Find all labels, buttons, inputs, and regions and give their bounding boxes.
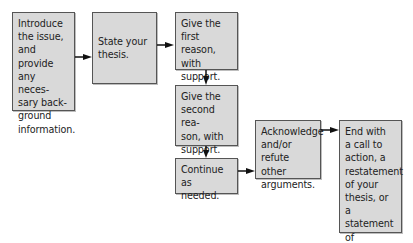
arrow-acknowledge-to-end [321,125,340,135]
step-second-reason: Give the second rea- son, with support. [175,85,238,146]
arrow-thesis-to-first-reason [157,40,175,50]
step-continue: Continue as needed. [175,158,238,194]
step-first-reason: Give the first reason, with support. [175,12,238,70]
step-end: End with a call to action, a restatement… [339,120,402,233]
arrow-continue-to-acknowledge [238,166,256,176]
step-state-thesis-text: State your thesis. [98,35,147,61]
step-introduce-issue: Introduce the issue, and provide any nec… [12,12,75,111]
arrow-first-to-second-reason [201,70,211,85]
step-state-thesis: State your thesis. [92,12,157,84]
arrow-intro-to-thesis [75,52,93,62]
step-acknowledge-refute: Acknowledge and/or refute other argument… [255,120,321,179]
arrow-second-reason-to-continue [201,146,211,158]
